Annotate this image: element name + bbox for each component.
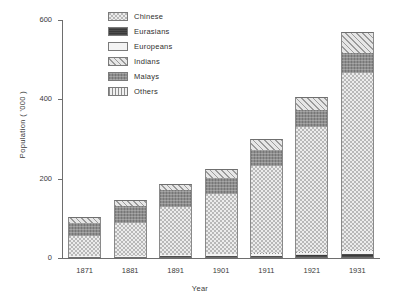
segment-1921-europeans — [295, 253, 328, 255]
y-tick-600: 600 — [58, 20, 63, 21]
segment-1891-chinese — [159, 207, 192, 255]
segment-1871-chinese — [68, 236, 101, 256]
legend-swatch-malays-icon — [108, 72, 128, 81]
x-tick-label-1881: 1881 — [122, 266, 139, 275]
segment-1921-malays — [295, 110, 328, 127]
segment-1911-malays — [250, 150, 283, 166]
legend-swatch-eurasians-icon — [108, 27, 128, 36]
legend-swatch-europeans-icon — [108, 42, 128, 51]
segment-1911-eurasians — [250, 256, 283, 258]
segment-1891-europeans — [159, 255, 192, 256]
y-tick-0: 0 — [58, 258, 63, 259]
segment-1881-eurasians — [114, 257, 147, 258]
bar-1911 — [250, 139, 283, 258]
segment-1921-indians — [295, 97, 328, 110]
legend-item-indians[interactable]: Indians — [108, 55, 218, 69]
x-tick-label-1921: 1921 — [304, 266, 321, 275]
segment-1891-indians — [159, 184, 192, 190]
population-bar-chart: Population ( '000 ) 0200400600 187118811… — [0, 0, 400, 304]
x-axis-line — [62, 258, 380, 259]
x-tick-label-1911: 1911 — [258, 266, 274, 275]
x-tick-label-1931: 1931 — [349, 266, 366, 275]
segment-1871-malays — [68, 223, 101, 236]
legend-item-others[interactable]: Others — [108, 85, 218, 99]
y-axis-title: Population ( '000 ) — [18, 55, 27, 195]
legend-label: Malays — [134, 72, 159, 81]
segment-1901-malays — [205, 178, 238, 194]
bar-1901 — [205, 169, 238, 258]
segment-1931-chinese — [341, 73, 374, 250]
segment-1901-indians — [205, 169, 238, 178]
x-tick-label-1901: 1901 — [213, 266, 230, 275]
x-axis-title: Year — [0, 284, 400, 293]
legend-item-malays[interactable]: Malays — [108, 70, 218, 84]
segment-1891-malays — [159, 190, 192, 207]
segment-1911-indians — [250, 139, 283, 150]
segment-1881-chinese — [114, 223, 147, 256]
y-tick-label: 400 — [39, 94, 52, 103]
legend-label: Eurasians — [134, 27, 170, 36]
legend-item-eurasians[interactable]: Eurasians — [108, 25, 218, 39]
segment-1921-eurasians — [295, 255, 328, 258]
y-axis-line — [62, 20, 63, 259]
legend-label: Chinese — [134, 12, 163, 21]
segment-1881-malays — [114, 206, 147, 223]
y-tick-label: 600 — [39, 15, 52, 24]
legend-item-europeans[interactable]: Europeans — [108, 40, 218, 54]
legend-swatch-indians-icon — [108, 57, 128, 66]
segment-1911-chinese — [250, 166, 283, 253]
bar-1871 — [68, 217, 101, 258]
legend-item-chinese[interactable]: Chinese — [108, 10, 218, 24]
legend-label: Europeans — [134, 42, 173, 51]
legend-label: Indians — [134, 57, 160, 66]
segment-1931-eurasians — [341, 254, 374, 258]
segment-1911-europeans — [250, 254, 283, 256]
legend: ChineseEurasiansEuropeansIndiansMalaysOt… — [108, 10, 218, 100]
segment-1891-eurasians — [159, 256, 192, 258]
x-tick-label-1871: 1871 — [76, 266, 93, 275]
segment-1881-indians — [114, 200, 147, 205]
y-tick-label: 200 — [39, 174, 52, 183]
segment-1931-indians — [341, 32, 374, 54]
segment-1871-indians — [68, 217, 101, 223]
segment-1931-malays — [341, 53, 374, 73]
segment-1901-chinese — [205, 194, 238, 254]
y-tick-200: 200 — [58, 179, 63, 180]
bar-1881 — [114, 200, 147, 258]
x-tick-label-1891: 1891 — [167, 266, 184, 275]
segment-1921-chinese — [295, 127, 328, 252]
segment-1901-eurasians — [205, 256, 238, 258]
bar-1921 — [295, 97, 328, 258]
bar-1891 — [159, 184, 192, 258]
segment-1931-europeans — [341, 251, 374, 254]
legend-swatch-chinese-icon — [108, 12, 128, 21]
segment-1931-others — [341, 250, 374, 251]
y-tick-label: 0 — [48, 253, 52, 262]
bar-1931 — [341, 32, 374, 258]
y-tick-400: 400 — [58, 99, 63, 100]
legend-label: Others — [134, 87, 158, 96]
legend-swatch-others-icon — [108, 87, 128, 96]
segment-1901-europeans — [205, 254, 238, 256]
